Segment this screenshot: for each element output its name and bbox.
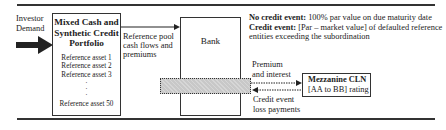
- cashflow-label: Reference pool cash flows and premiums: [123, 32, 174, 59]
- reference-asset: Reference asset 50: [53, 100, 120, 109]
- portfolio-box: Mixed Cash and Synthetic Credit Portfoli…: [52, 13, 121, 116]
- premium-label: Premium and interest: [252, 60, 291, 79]
- reference-asset-list: Reference asset 1 Reference asset 2 Refe…: [53, 54, 120, 108]
- bank-label: Bank: [181, 36, 240, 47]
- mezzanine-cln-box: Mezzanine CLN [AA to BB] rating: [302, 73, 371, 97]
- top-rule: [17, 4, 435, 6]
- cashflow-arrow-icon: [121, 23, 181, 31]
- credit-event-line: Credit event: [Par – market value] of de…: [249, 23, 442, 33]
- no-credit-event-line: No credit event: 100% par value on due m…: [249, 13, 442, 23]
- bottom-rule: [17, 118, 435, 120]
- loss-payments-label: Credit event loss payments: [253, 95, 300, 114]
- premium-arrow-icon: [251, 80, 303, 86]
- loss-arrow-icon: [251, 87, 303, 93]
- investor-arrow-icon: [16, 36, 54, 54]
- reference-asset: Reference asset 1: [53, 54, 120, 63]
- credit-event-terms: No credit event: 100% par value on due m…: [249, 13, 442, 42]
- ellipsis-dot: ·: [53, 92, 120, 98]
- tranche-band: [160, 78, 251, 94]
- bank-box: Bank: [180, 17, 241, 116]
- investor-demand-label: Investor Demand: [16, 14, 44, 33]
- portfolio-title: Mixed Cash and Synthetic Credit Portfoli…: [53, 17, 120, 49]
- reference-asset: Reference asset 2: [53, 62, 120, 71]
